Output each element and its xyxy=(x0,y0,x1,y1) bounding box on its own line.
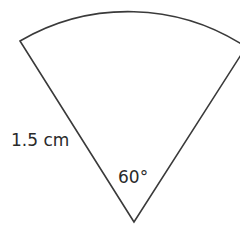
sector-shape xyxy=(20,12,240,222)
sector-diagram: 1.5 cm 60° xyxy=(0,0,240,232)
radius-label: 1.5 cm xyxy=(11,130,69,150)
angle-label: 60° xyxy=(118,167,148,187)
